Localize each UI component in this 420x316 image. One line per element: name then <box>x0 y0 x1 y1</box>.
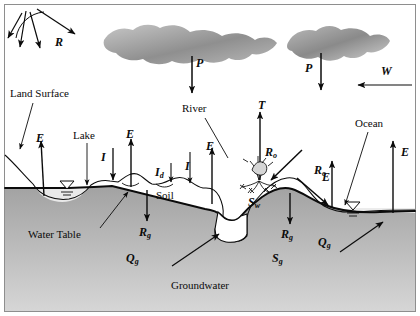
diagram-canvas <box>0 0 420 316</box>
hydrologic-cycle-figure: Land Surface Lake River Ocean Soil Water… <box>0 0 420 316</box>
